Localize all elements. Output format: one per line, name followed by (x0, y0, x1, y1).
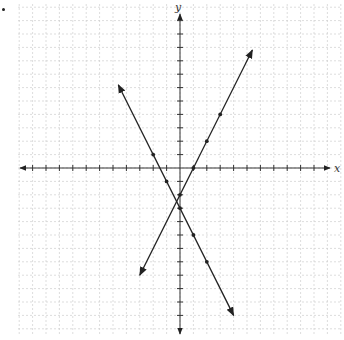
coordinate-plane: x y (0, 0, 344, 340)
x-axis-label: x (334, 162, 341, 175)
axes (20, 14, 330, 334)
plotted-lines (118, 50, 252, 315)
y-axis-label: y (174, 1, 182, 14)
